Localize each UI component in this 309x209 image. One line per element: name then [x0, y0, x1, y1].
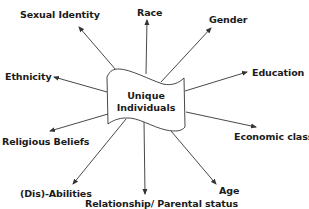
arrow-ethnicity	[54, 77, 107, 92]
center-title: Unique Individuals	[113, 90, 179, 114]
label-religious-beliefs: Religious Beliefs	[2, 137, 89, 147]
diversity-diagram: Unique Individuals Sexual Identity Race …	[0, 0, 309, 209]
center-title-line1: Unique	[113, 90, 179, 102]
label-relationship-parental-status: Relationship/ Parental status	[85, 199, 238, 209]
label-dis-abilities: (Dis)-Abilities	[20, 189, 92, 199]
label-race: Race	[137, 8, 162, 18]
arrow-sexual-identity	[79, 27, 116, 70]
label-ethnicity: Ethnicity	[5, 72, 52, 82]
label-age: Age	[219, 186, 239, 196]
arrow-religious-beliefs	[50, 114, 108, 131]
arrow-dis-abilities	[73, 119, 126, 184]
arrow-age	[171, 131, 216, 184]
label-education: Education	[252, 68, 304, 78]
arrow-race	[146, 20, 147, 74]
arrow-education	[185, 72, 247, 91]
label-gender: Gender	[209, 15, 247, 25]
arrow-economic-class	[186, 112, 256, 127]
arrow-gender	[161, 28, 211, 82]
label-sexual-identity: Sexual Identity	[20, 10, 100, 20]
center-title-line2: Individuals	[113, 102, 179, 114]
label-economic-class: Economic class	[234, 132, 309, 142]
arrow-relationship	[144, 121, 145, 194]
